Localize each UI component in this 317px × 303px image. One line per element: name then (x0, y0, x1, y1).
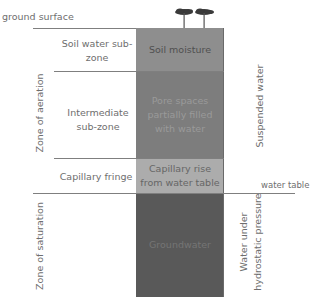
zone-of-aeration-label: Zone of aeration (33, 63, 47, 163)
trees-icon (174, 7, 224, 29)
layer-capillary-rise-label: Capillary rise from water table (138, 162, 222, 190)
layer-soil-moisture-label: Soil moisture (149, 43, 211, 57)
ground-surface-label: ground surface (2, 11, 74, 22)
layer-groundwater: Groundwater (136, 193, 224, 297)
soil-water-subzone-label: Soil water sub-zone (60, 37, 134, 65)
layer-capillary-rise: Capillary rise from water table (136, 158, 224, 193)
layer-soil-moisture: Soil moisture (136, 28, 224, 71)
capillary-fringe-label: Capillary fringe (56, 170, 136, 184)
soil-water-divider (54, 71, 224, 72)
layer-groundwater-label: Groundwater (149, 238, 211, 252)
hydrostatic-line1: Water under (237, 187, 251, 297)
layer-pore-spaces: Pore spaces partially filled with water (136, 71, 224, 158)
suspended-water-label: Suspended water (253, 56, 267, 156)
zone-of-saturation-label: Zone of saturation (33, 196, 47, 296)
layer-pore-spaces-label: Pore spaces partially filled with water (144, 94, 216, 136)
capillary-divider (54, 158, 224, 159)
column-right-edge (223, 28, 224, 297)
ground-surface-line (33, 28, 137, 29)
hydrostatic-line2: hydrostatic pressure (251, 187, 265, 297)
hydrostatic-pressure-label: Water under hydrostatic pressure (237, 187, 269, 297)
intermediate-subzone-label: Intermediate sub-zone (62, 106, 134, 134)
